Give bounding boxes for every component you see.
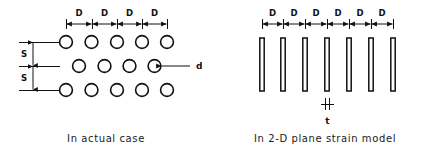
caption-plane-strain-model: In 2-D plane strain model [254,133,396,144]
dimension-label-D: D [312,8,319,18]
pile-circle [161,84,174,97]
pile-circle-annotated [148,60,161,73]
figure-container: D D D D S S [0,0,422,157]
wall-bar [347,38,351,91]
dimension-label-D: D [126,8,133,18]
diameter-label-d: d [196,61,202,71]
dimension-label-D: D [290,8,297,18]
pile-circle [85,36,98,49]
pile-circle [161,36,174,49]
dimension-label-S: S [21,49,27,59]
dimension-label-S: S [21,73,27,83]
caption-actual-case: In actual case [67,133,145,144]
dimension-label-D: D [334,8,341,18]
dimension-label-D: D [151,8,158,18]
engineering-diagram: D D D D S S [0,0,422,157]
wall-bar [303,38,307,91]
pile-circle [85,84,98,97]
pile-circle [123,60,136,73]
pile-circle [98,60,111,73]
wall-bar-annotated [325,38,329,91]
dimension-label-D: D [101,8,108,18]
dimension-label-D: D [75,8,82,18]
pile-circle [111,84,124,97]
dimension-label-D: D [378,8,385,18]
thickness-label-t: t [325,116,330,126]
pile-circle [73,60,86,73]
pile-circle [136,84,149,97]
wall-bar [369,38,373,91]
wall-bar [260,38,264,91]
wall-bar [391,38,395,91]
pile-circle [136,36,149,49]
dimension-label-D: D [356,8,363,18]
wall-bar [281,38,285,91]
pile-circle [60,36,73,49]
pile-circle [111,36,124,49]
pile-circle [60,84,73,97]
dimension-label-D: D [269,8,276,18]
